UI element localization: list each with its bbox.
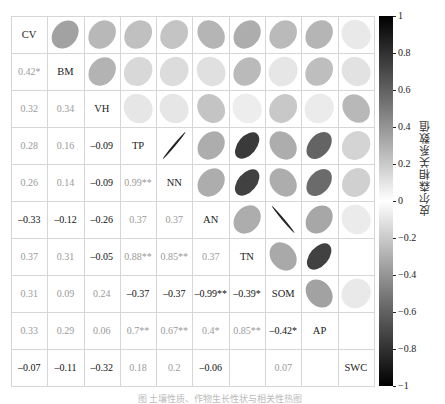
diagonal-label: TP	[120, 127, 157, 165]
coefficient-cell: 0.2	[156, 349, 193, 387]
coefficient-value: –0.33	[18, 214, 41, 225]
coefficient-value: 0.16	[57, 140, 75, 151]
variable-name: TN	[240, 251, 254, 262]
colorbar-tick	[393, 53, 396, 54]
correlation-ellipse-icon	[193, 53, 229, 90]
ellipse-cell	[338, 238, 375, 276]
coefficient-value: 0.37	[129, 214, 147, 225]
ellipse-cell	[156, 53, 193, 91]
colorbar-tick-label: 0.8	[398, 48, 411, 58]
ellipse-cell	[265, 201, 302, 239]
coefficient-cell: –0.42*	[265, 312, 302, 350]
correlation-ellipse-icon	[156, 127, 192, 164]
ellipse-cell	[301, 238, 338, 276]
coefficient-cell	[229, 349, 266, 387]
coefficient-value: –0.26	[90, 214, 113, 225]
ellipse-cell	[156, 127, 193, 165]
correlation-ellipse-icon	[338, 127, 374, 164]
correlation-ellipse-icon	[301, 127, 337, 164]
colorbar-tick	[393, 349, 396, 350]
coefficient-value: –0.37	[127, 288, 150, 299]
colorbar-tick	[393, 90, 396, 91]
ellipse-cell	[265, 127, 302, 165]
correlation-ellipse-icon	[229, 201, 265, 238]
coefficient-cell: 0.16	[47, 127, 84, 165]
ellipse-cell	[265, 164, 302, 202]
coefficient-value: –0.07	[18, 362, 41, 373]
coefficient-cell: 0.14	[47, 164, 84, 202]
ellipse-cell	[193, 53, 230, 91]
coefficient-value: 0.33	[20, 325, 38, 336]
coefficient-cell: 0.09	[47, 275, 84, 313]
coefficient-cell: –0.26	[84, 201, 121, 239]
coefficient-value: 0.99**	[124, 177, 152, 188]
coefficient-cell: 0.32	[11, 90, 48, 128]
coefficient-cell: –0.07	[11, 349, 48, 387]
colorbar-tick-label: 1	[398, 11, 403, 21]
correlation-ellipse-icon	[265, 16, 301, 53]
correlation-ellipse-icon	[193, 127, 229, 164]
coefficient-cell: 0.33	[11, 312, 48, 350]
correlation-ellipse-icon	[229, 53, 265, 90]
coefficient-value: 0.31	[20, 288, 38, 299]
correlation-matrix: CV0.42*BM0.320.34VH0.280.16–0.09TP0.260.…	[11, 16, 374, 386]
correlation-ellipse-icon	[229, 16, 265, 53]
coefficient-cell: 0.85**	[229, 312, 266, 350]
correlation-ellipse-icon	[47, 16, 83, 53]
ellipse-cell	[229, 127, 266, 165]
correlation-ellipse-icon	[156, 90, 192, 127]
diagonal-label: NN	[156, 164, 193, 202]
coefficient-value: 0.14	[57, 177, 75, 188]
correlation-ellipse-icon	[229, 90, 265, 127]
correlation-ellipse-icon	[120, 53, 156, 90]
colorbar-tick-label: 0	[398, 196, 403, 206]
ellipse-cell	[120, 53, 157, 91]
coefficient-cell: 0.29	[47, 312, 84, 350]
colorbar-tick	[393, 127, 396, 128]
coefficient-value: 0.34	[57, 103, 75, 114]
colorbar-tick-label: −1	[398, 381, 409, 391]
coefficient-value: 0.32	[20, 103, 38, 114]
correlation-ellipse-icon	[265, 53, 301, 90]
correlation-ellipse-icon	[120, 16, 156, 53]
ellipse-cell	[120, 16, 157, 54]
coefficient-value: 0.09	[57, 288, 75, 299]
coefficient-value: –0.09	[90, 177, 113, 188]
coefficient-value: –0.42*	[269, 325, 297, 336]
ellipse-cell	[301, 275, 338, 313]
colorbar-tick	[393, 201, 396, 202]
ellipse-cell	[265, 53, 302, 91]
coefficient-cell: –0.06	[193, 349, 230, 387]
correlation-ellipse-icon	[156, 53, 192, 90]
coefficient-cell: 0.4*	[193, 312, 230, 350]
variable-name: AP	[313, 325, 326, 336]
correlation-ellipse-icon	[193, 90, 229, 127]
diagonal-label: SOM	[265, 275, 302, 313]
correlation-ellipse-icon	[229, 164, 265, 201]
coefficient-value: 0.31	[57, 251, 75, 262]
coefficient-cell: 0.67**	[156, 312, 193, 350]
variable-name: TP	[132, 140, 144, 151]
ellipse-cell	[156, 90, 193, 128]
ellipse-cell	[338, 201, 375, 239]
coefficient-cell: –0.37	[156, 275, 193, 313]
ellipse-cell	[229, 164, 266, 202]
coefficient-cell: –0.09	[84, 127, 121, 165]
correlation-ellipse-icon	[229, 127, 265, 164]
correlation-ellipse-icon	[301, 201, 337, 238]
coefficient-cell: –0.39*	[229, 275, 266, 313]
variable-name: BM	[57, 66, 73, 77]
ellipse-cell	[193, 127, 230, 165]
ellipse-cell	[338, 16, 375, 54]
ellipse-cell	[338, 53, 375, 91]
colorbar-tick-label: 0.4	[398, 122, 411, 132]
coefficient-cell: 0.88**	[120, 238, 157, 276]
coefficient-cell: 0.37	[11, 238, 48, 276]
correlation-ellipse-icon	[84, 53, 120, 90]
ellipse-cell	[265, 16, 302, 54]
colorbar-tick	[393, 16, 396, 17]
coefficient-cell: –0.05	[84, 238, 121, 276]
correlation-ellipse-icon	[301, 164, 337, 201]
coefficient-value: 0.37	[20, 251, 38, 262]
correlation-ellipse-icon	[84, 16, 120, 53]
